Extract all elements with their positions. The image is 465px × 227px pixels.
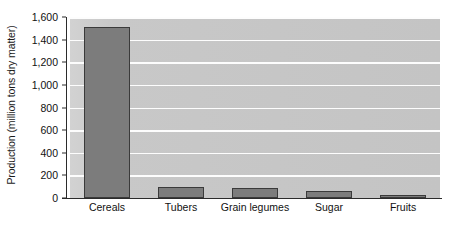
x-axis-line bbox=[62, 198, 442, 199]
bar-tubers bbox=[158, 187, 204, 198]
y-tick-label: 800 bbox=[40, 102, 58, 114]
plot-area bbox=[70, 17, 440, 198]
bar-slot bbox=[366, 17, 440, 198]
bar-chart-figure: Production (million tons dry matter) 020… bbox=[0, 0, 465, 227]
bar-slot bbox=[70, 17, 144, 198]
bar-grain-legumes bbox=[232, 188, 278, 198]
y-axis-tick-labels: 02004006008001,0001,2001,4001,600 bbox=[22, 0, 62, 227]
x-tick-label: Tubers bbox=[144, 201, 218, 225]
y-tick-label: 0 bbox=[52, 192, 58, 204]
y-tick-label: 1,600 bbox=[32, 11, 58, 23]
y-tick-label: 200 bbox=[40, 169, 58, 181]
bar-slot bbox=[144, 17, 218, 198]
x-tick-label: Sugar bbox=[292, 201, 366, 225]
bar-slot bbox=[292, 17, 366, 198]
x-tick-label: Grain legumes bbox=[218, 201, 292, 225]
bar-slot bbox=[218, 17, 292, 198]
x-tick-label: Fruits bbox=[366, 201, 440, 225]
x-axis-tick-labels: CerealsTubersGrain legumesSugarFruits bbox=[70, 201, 440, 225]
y-tick-label: 1,000 bbox=[32, 79, 58, 91]
y-tick-label: 1,400 bbox=[32, 34, 58, 46]
y-tick-label: 400 bbox=[40, 147, 58, 159]
bar-fruits bbox=[380, 195, 426, 198]
y-tick-label: 1,200 bbox=[32, 56, 58, 68]
x-tick-label: Cereals bbox=[70, 201, 144, 225]
bar-cereals bbox=[84, 27, 130, 198]
y-axis-title-container: Production (million tons dry matter) bbox=[0, 0, 22, 210]
bar-sugar bbox=[306, 191, 352, 198]
bar-series bbox=[70, 17, 440, 198]
y-axis-line bbox=[66, 17, 67, 199]
y-tick-label: 600 bbox=[40, 124, 58, 136]
y-axis-title: Production (million tons dry matter) bbox=[5, 25, 17, 184]
